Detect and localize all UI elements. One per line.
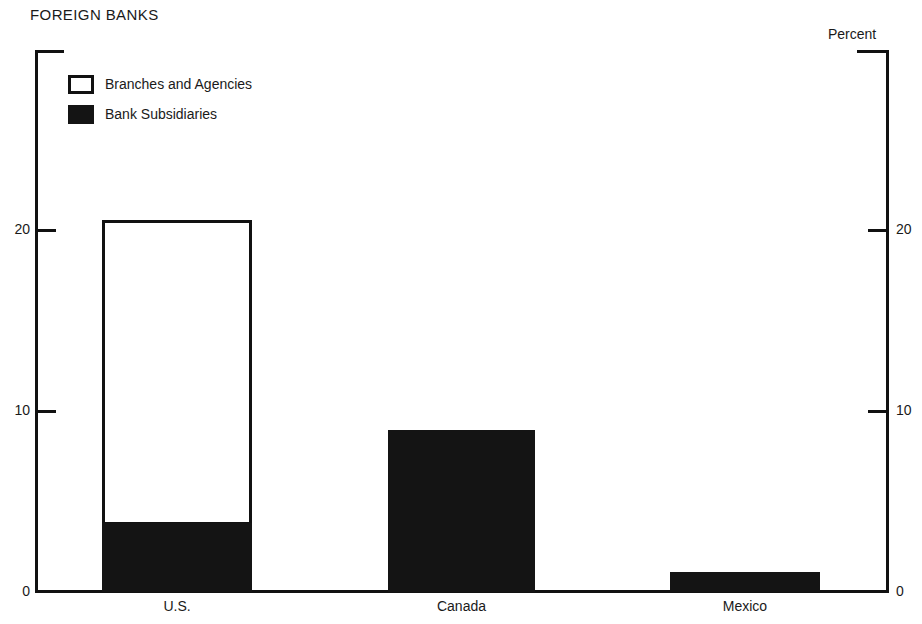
right-tick-20 bbox=[868, 229, 886, 232]
right-tick-10 bbox=[868, 410, 886, 413]
bar-canada[interactable] bbox=[388, 430, 535, 592]
left-tick-10 bbox=[38, 410, 56, 413]
right-tick-label-20: 20 bbox=[896, 221, 912, 237]
left-axis-line bbox=[35, 50, 38, 593]
bar-mexico[interactable] bbox=[670, 572, 820, 592]
top-right-axis-stub bbox=[857, 50, 889, 53]
chart-title: FOREIGN BANKS bbox=[30, 6, 159, 23]
left-tick-label-20: 20 bbox=[0, 221, 30, 237]
legend-label-branches-and-agencies: Branches and Agencies bbox=[105, 76, 252, 92]
bar-mexico-bank-subsidiaries[interactable] bbox=[670, 572, 820, 592]
bar-us-bank-subsidiaries[interactable] bbox=[102, 523, 252, 592]
legend-label-bank-subsidiaries: Bank Subsidiaries bbox=[105, 106, 217, 122]
filled-square-swatch-icon bbox=[68, 105, 94, 124]
bar-chart-figure: FOREIGN BANKS Percent 20 10 0 20 10 0 U.… bbox=[0, 0, 922, 624]
chart-legend: Branches and Agencies Bank Subsidiaries bbox=[68, 70, 252, 130]
legend-item-branches-and-agencies: Branches and Agencies bbox=[68, 70, 252, 98]
category-label-us: U.S. bbox=[102, 598, 252, 614]
right-tick-label-10: 10 bbox=[896, 402, 912, 418]
category-label-mexico: Mexico bbox=[670, 598, 820, 614]
bar-us[interactable] bbox=[102, 220, 252, 592]
right-axis-line bbox=[886, 50, 889, 593]
top-left-axis-stub bbox=[35, 50, 64, 53]
category-label-canada: Canada bbox=[388, 598, 535, 614]
left-tick-label-10: 10 bbox=[0, 402, 30, 418]
legend-item-bank-subsidiaries: Bank Subsidiaries bbox=[68, 100, 252, 128]
unit-label: Percent bbox=[828, 26, 876, 42]
left-tick-20 bbox=[38, 229, 56, 232]
bar-canada-bank-subsidiaries[interactable] bbox=[388, 430, 535, 592]
left-tick-label-0: 0 bbox=[0, 583, 30, 599]
bar-us-branches-and-agencies[interactable] bbox=[102, 220, 252, 525]
right-tick-label-0: 0 bbox=[896, 583, 904, 599]
open-square-swatch-icon bbox=[68, 75, 94, 94]
